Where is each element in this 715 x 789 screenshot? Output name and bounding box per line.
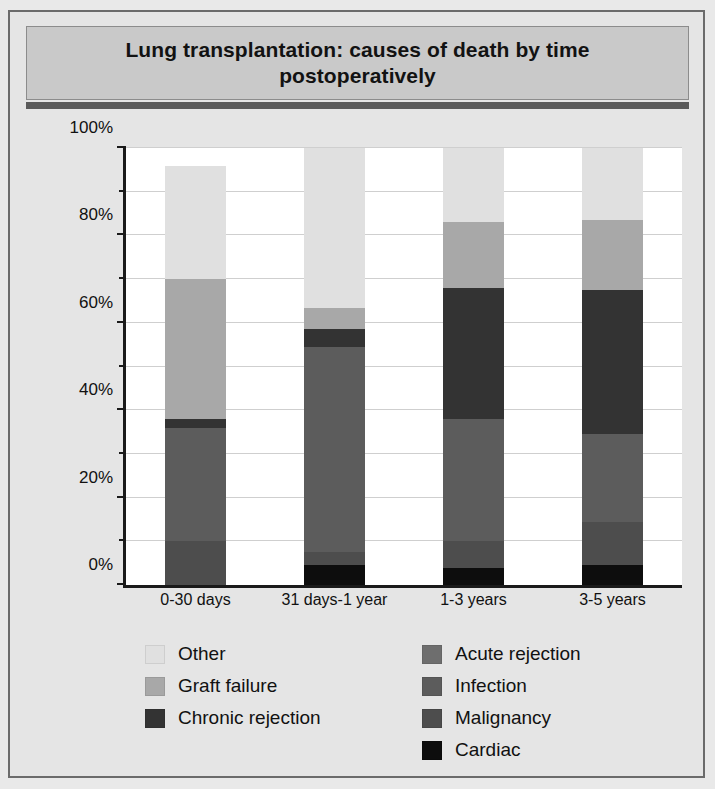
- y-axis-label: 20%: [79, 468, 113, 488]
- chart-title: Lung transplantation: causes of death by…: [27, 37, 688, 88]
- legend-item-label: Acute rejection: [455, 643, 581, 665]
- bar-segment: [582, 290, 643, 434]
- chart-figure: Lung transplantation: causes of death by…: [8, 10, 705, 778]
- bar-segment: [582, 434, 643, 521]
- legend-swatch-icon: [422, 677, 442, 696]
- bar-segment: [582, 522, 643, 566]
- bar-segment: [165, 428, 226, 542]
- y-tick-major: [117, 408, 126, 410]
- legend-item-label: Chronic rejection: [178, 707, 321, 729]
- legend-item-label: Cardiac: [455, 739, 520, 761]
- y-tick-major: [117, 321, 126, 323]
- legend-item[interactable]: Chronic rejection: [145, 702, 321, 734]
- y-tick-major: [117, 583, 126, 585]
- bar-segment: [304, 148, 365, 308]
- bar-segment: [165, 279, 226, 419]
- bar-segment: [165, 166, 226, 280]
- y-tick-minor: [119, 190, 126, 192]
- bar-segment: [165, 541, 226, 585]
- x-axis-label: 31 days-1 year: [282, 591, 388, 609]
- legend-item-label: Other: [178, 643, 226, 665]
- legend-item-label: Graft failure: [178, 675, 277, 697]
- bar-segment: [304, 329, 365, 346]
- bar-segment: [582, 565, 643, 585]
- bar-segment: [443, 419, 504, 541]
- legend-swatch-icon: [145, 645, 165, 664]
- legend-item[interactable]: Cardiac: [422, 734, 581, 766]
- y-tick-major: [117, 496, 126, 498]
- legend-swatch-icon: [145, 709, 165, 728]
- legend-item[interactable]: Malignancy: [422, 702, 581, 734]
- plot-area: 0%20%40%60%80%100% 0-30 days31 days-1 ye…: [123, 148, 682, 588]
- bar-segment: [443, 222, 504, 288]
- bar-segment: [304, 347, 365, 552]
- legend-swatch-icon: [422, 709, 442, 728]
- x-axis-label: 1-3 years: [440, 591, 507, 609]
- y-tick-minor: [119, 539, 126, 541]
- bar-segment: [443, 148, 504, 222]
- legend-swatch-icon: [145, 677, 165, 696]
- bar-segment: [165, 419, 226, 428]
- y-tick-major: [117, 146, 126, 148]
- y-axis-label: 40%: [79, 380, 113, 400]
- legend-item-label: Malignancy: [455, 707, 551, 729]
- bar-segment: [304, 565, 365, 585]
- legend-item[interactable]: Acute rejection: [422, 638, 581, 670]
- legend-swatch-icon: [422, 645, 442, 664]
- legend-column-right: Acute rejectionInfectionMalignancyCardia…: [422, 638, 581, 766]
- y-tick-major: [117, 233, 126, 235]
- chart-title-bar: Lung transplantation: causes of death by…: [26, 26, 689, 100]
- legend-item[interactable]: Other: [145, 638, 321, 670]
- y-tick-minor: [119, 452, 126, 454]
- y-tick-minor: [119, 365, 126, 367]
- legend-item-label: Infection: [455, 675, 527, 697]
- bar-column: [304, 148, 365, 585]
- legend-item[interactable]: Graft failure: [145, 670, 321, 702]
- bar-segment: [443, 288, 504, 419]
- legend-swatch-icon: [422, 741, 442, 760]
- bar-segment: [582, 220, 643, 290]
- chart-legend: OtherGraft failureChronic rejection Acut…: [145, 638, 665, 766]
- legend-column-left: OtherGraft failureChronic rejection: [145, 638, 321, 734]
- bar-column: [582, 148, 643, 585]
- bar-segment: [304, 308, 365, 330]
- y-axis-label: 60%: [79, 293, 113, 313]
- bar-segment: [582, 148, 643, 220]
- bar-column: [443, 148, 504, 585]
- y-tick-minor: [119, 277, 126, 279]
- bar-segment: [443, 541, 504, 567]
- title-rule: [26, 102, 689, 109]
- y-axis-label: 0%: [88, 555, 113, 575]
- y-axis-label: 100%: [70, 118, 113, 138]
- x-axis-label: 3-5 years: [579, 591, 646, 609]
- legend-item[interactable]: Infection: [422, 670, 581, 702]
- bar-segment: [443, 568, 504, 585]
- bar-column: [165, 166, 226, 585]
- x-axis-label: 0-30 days: [160, 591, 230, 609]
- y-axis-label: 80%: [79, 205, 113, 225]
- bar-segment: [304, 552, 365, 565]
